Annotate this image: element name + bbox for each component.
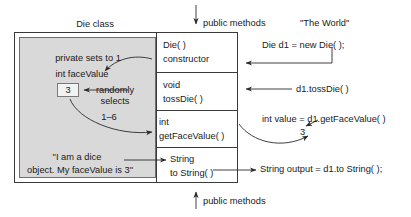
call-get-face-value[interactable]: int value = d1.getFaceValue( ) [262,114,386,126]
methods-divider-1 [156,72,238,73]
method-constructor-line1[interactable]: Die( ) [163,40,186,52]
bottom-public-methods-label: public methods [203,196,266,208]
top-public-methods-label: public methods [203,18,266,30]
arrow-getfacevalue-return [239,124,308,143]
face-value-value-box: 3 [57,83,79,97]
methods-divider-3 [156,147,238,148]
face-value-field-label: int faceValue [26,69,138,81]
call-to-string[interactable]: String output = d1.to String( ); [260,164,382,176]
randomly-selects-line1: randomly [86,85,144,97]
call-toss-die[interactable]: d1.tossDie( ) [296,84,349,96]
methods-divider-2 [156,110,238,111]
tostring-text-line1: "I am a dice [22,152,132,164]
diagram-canvas: Die class public methods "The World" pub… [0,0,411,217]
method-toss-die-line2[interactable]: tossDie( ) [163,94,203,106]
call-get-face-value-result: 3 [300,127,305,139]
method-to-string-line1[interactable]: String [170,154,194,166]
range-label: 1–6 [86,112,132,124]
method-constructor-line2[interactable]: constructor [163,54,209,66]
tostring-text-line2: object. My faceValue is 3" [18,165,142,177]
die-class-title: Die class [40,19,150,31]
randomly-selects-line2: selects [86,96,144,108]
method-get-face-value-line2[interactable]: getFaceValue( ) [159,131,224,143]
call-new-die[interactable]: Die d1 = new Die( ); [262,40,344,52]
method-get-face-value-line1[interactable]: int [159,117,169,129]
the-world-title: "The World" [300,18,349,30]
method-to-string-line2[interactable]: to String( ) [170,168,213,180]
private-sets-to-one-label: private sets to 1 [26,53,150,65]
method-toss-die-line1[interactable]: void [163,80,180,92]
